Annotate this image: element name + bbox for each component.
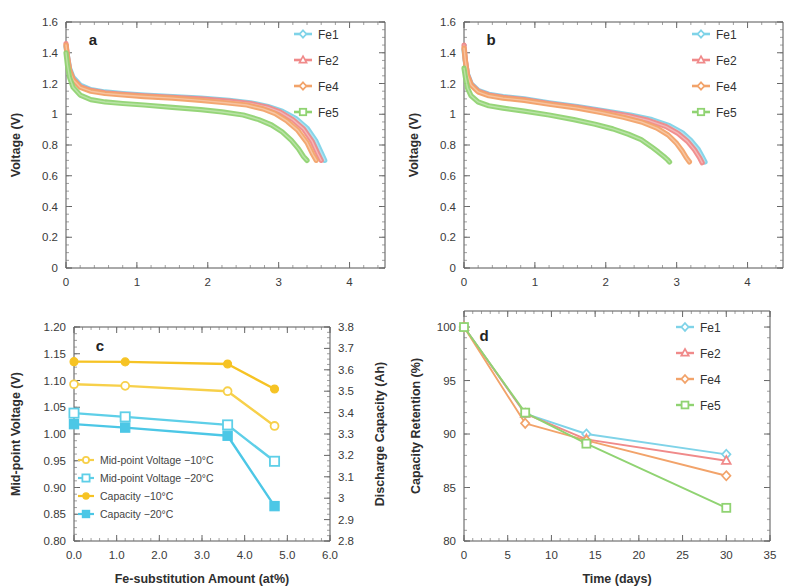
legend-label-fe1: Fe1 bbox=[716, 28, 737, 42]
x-tick-label: 5.0 bbox=[279, 549, 295, 561]
y-tick-label-left: 0.85 bbox=[44, 508, 66, 520]
data-point-marker bbox=[270, 457, 279, 466]
panel-label: c bbox=[96, 337, 104, 354]
legend-label-fe2: Fe2 bbox=[716, 54, 737, 68]
legend-label-fe5: Fe5 bbox=[318, 106, 339, 120]
panel-b-chart: 0123400.20.40.60.811.21.41.6Discharge Ca… bbox=[398, 0, 796, 294]
x-axis-title: Fe-substitution Amount (at%) bbox=[115, 572, 290, 586]
y-tick-label: 1.4 bbox=[440, 47, 457, 59]
data-point-marker bbox=[681, 375, 688, 383]
legend-label-fe4: Fe4 bbox=[318, 80, 339, 94]
x-tick-label: 30 bbox=[720, 549, 733, 561]
data-point-marker bbox=[223, 431, 232, 440]
y-tick-label-right: 3.1 bbox=[338, 471, 354, 483]
x-tick-label: 2 bbox=[205, 276, 211, 288]
data-point-marker bbox=[682, 402, 689, 409]
data-point-marker bbox=[722, 471, 730, 480]
data-point-marker bbox=[521, 409, 529, 417]
panel-label: a bbox=[89, 31, 98, 48]
y-tick-label: 1 bbox=[52, 108, 58, 120]
data-point-marker bbox=[698, 109, 704, 115]
y-axis-title-left: Mid-point Voltage (V) bbox=[9, 372, 23, 496]
y-tick-label-right: 3.4 bbox=[338, 407, 355, 419]
data-point-marker bbox=[69, 409, 78, 418]
data-point-marker bbox=[698, 82, 705, 89]
data-point-marker bbox=[722, 504, 730, 512]
data-point-marker bbox=[271, 422, 279, 430]
data-point-marker bbox=[299, 56, 306, 62]
x-tick-label: 0 bbox=[63, 276, 69, 288]
data-point-marker bbox=[121, 358, 129, 366]
y-tick-label-right: 3.7 bbox=[338, 342, 354, 354]
panel-a-chart: 0123400.20.40.60.811.21.41.6Discharge Ca… bbox=[0, 0, 398, 294]
y-tick-label-left: 1.20 bbox=[44, 321, 66, 333]
legend-label-fe4: Fe4 bbox=[716, 80, 737, 94]
panel-d-chart: 0510152025303580859095100Time (days)Capa… bbox=[398, 293, 796, 587]
y-tick-label: 0.4 bbox=[440, 201, 457, 213]
x-tick-label: 0 bbox=[461, 276, 467, 288]
y-tick-label: 0.2 bbox=[42, 231, 58, 243]
legend: Fe1Fe2Fe4Fe5 bbox=[692, 28, 737, 120]
y-tick-label: 100 bbox=[437, 321, 456, 333]
y-tick-label: 0.2 bbox=[440, 231, 456, 243]
x-tick-label: 0.0 bbox=[66, 549, 82, 561]
data-point-marker bbox=[224, 387, 232, 395]
y-tick-label-right: 3.8 bbox=[338, 321, 354, 333]
y-tick-label: 0 bbox=[52, 262, 58, 274]
data-series bbox=[69, 358, 279, 511]
legend: Mid-point Voltage −10°CMid-point Voltage… bbox=[78, 454, 214, 520]
y-tick-label-right: 3 bbox=[338, 492, 344, 504]
data-series bbox=[460, 322, 731, 512]
y-tick-label: 0.6 bbox=[440, 170, 456, 182]
y-tick-label: 0.4 bbox=[42, 201, 59, 213]
data-point-marker bbox=[121, 412, 130, 421]
x-tick-label: 15 bbox=[589, 549, 602, 561]
data-curves bbox=[464, 45, 705, 163]
y-tick-label-left: 0.80 bbox=[44, 535, 66, 547]
y-axis-title: Capacity Retention (%) bbox=[409, 358, 423, 494]
data-point-marker bbox=[121, 382, 129, 390]
legend-label-fe2: Fe2 bbox=[318, 54, 339, 68]
x-tick-label: 3 bbox=[275, 276, 281, 288]
data-point-marker bbox=[698, 30, 705, 37]
x-tick-label: 10 bbox=[545, 549, 558, 561]
x-tick-label: 3.0 bbox=[194, 549, 210, 561]
legend-label-fe4: Fe4 bbox=[700, 373, 721, 387]
y-tick-label-left: 0.95 bbox=[44, 455, 66, 467]
y-tick-label: 1.2 bbox=[440, 78, 456, 90]
panel-b-discharge-curves-20c: 0123400.20.40.60.811.21.41.6Discharge Ca… bbox=[398, 0, 796, 294]
y-tick-label: 1.4 bbox=[42, 47, 59, 59]
data-point-marker bbox=[82, 510, 89, 517]
x-axis-title: Time (days) bbox=[582, 572, 651, 586]
y-tick-label: 1.6 bbox=[440, 16, 456, 28]
legend-label-fe2: Fe2 bbox=[700, 347, 721, 361]
data-point-marker bbox=[70, 380, 78, 388]
y-tick-label-right: 3.3 bbox=[338, 428, 354, 440]
panel-a-discharge-curves-10c: 0123400.20.40.60.811.21.41.6Discharge Ca… bbox=[0, 0, 398, 294]
data-point-marker bbox=[697, 56, 704, 62]
x-tick-label: 4 bbox=[346, 276, 353, 288]
series-curve-highlight bbox=[464, 45, 702, 163]
y-tick-label-left: 1.10 bbox=[44, 375, 66, 387]
x-tick-label: 1.0 bbox=[109, 549, 125, 561]
x-tick-label: 25 bbox=[676, 549, 689, 561]
data-point-marker bbox=[582, 440, 590, 448]
panel-label: b bbox=[486, 31, 495, 48]
legend-label-fe5: Fe5 bbox=[716, 106, 737, 120]
data-point-marker bbox=[722, 456, 731, 464]
y-tick-label-right: 2.8 bbox=[338, 535, 354, 547]
x-tick-label: 2.0 bbox=[151, 549, 167, 561]
y-tick-label-right: 3.5 bbox=[338, 385, 354, 397]
legend-label-1: Mid-point Voltage −20°C bbox=[100, 472, 214, 484]
data-point-marker bbox=[270, 502, 279, 511]
y-tick-label: 90 bbox=[443, 428, 456, 440]
y-tick-label: 1 bbox=[450, 108, 456, 120]
panel-label: d bbox=[479, 327, 488, 344]
legend-label-3: Capacity −20°C bbox=[100, 508, 174, 520]
y-tick-label: 1.2 bbox=[42, 78, 58, 90]
y-tick-label-right: 3.6 bbox=[338, 364, 354, 376]
x-tick-label: 5 bbox=[505, 549, 511, 561]
data-point-marker bbox=[69, 420, 78, 429]
x-tick-label: 1 bbox=[134, 276, 140, 288]
legend-label-0: Mid-point Voltage −10°C bbox=[100, 454, 214, 466]
